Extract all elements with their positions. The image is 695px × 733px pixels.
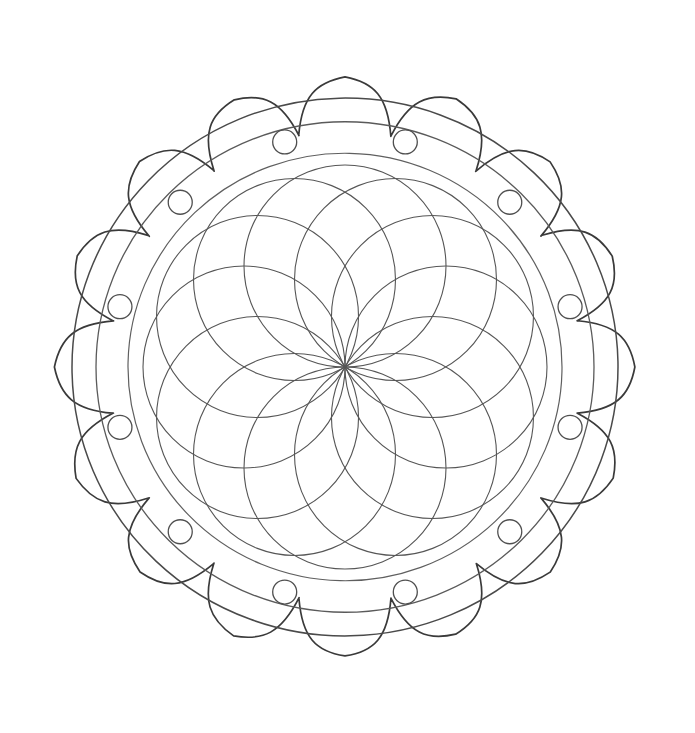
mandala-drawing: [0, 0, 695, 733]
mandala-canvas: [0, 0, 695, 733]
